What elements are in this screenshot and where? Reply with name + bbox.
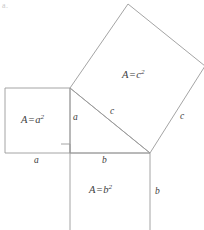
- side-label-c-inner: c: [110, 107, 114, 117]
- area-label-c: A=c2: [122, 70, 145, 81]
- area-label-b: A=b2: [89, 185, 112, 196]
- side-label-c-outer: c: [180, 112, 184, 122]
- area-label-b-exponent: 2: [109, 183, 113, 191]
- area-label-c-exponent: 2: [141, 68, 145, 76]
- side-label-a-horizontal: a: [34, 156, 39, 166]
- area-label-a-exponent: 2: [41, 113, 45, 121]
- side-label-b-horizontal: b: [102, 156, 107, 166]
- pythagorean-theorem-figure: a. A=a2 A=c2 A=b2 a a b b c c: [0, 0, 204, 230]
- area-label-a: A=a2: [21, 115, 44, 126]
- side-label-a-vertical: a: [73, 113, 78, 123]
- right-angle-marker: [61, 144, 70, 153]
- triangle-hypotenuse-c: [70, 88, 150, 153]
- side-label-b-vertical: b: [155, 187, 160, 197]
